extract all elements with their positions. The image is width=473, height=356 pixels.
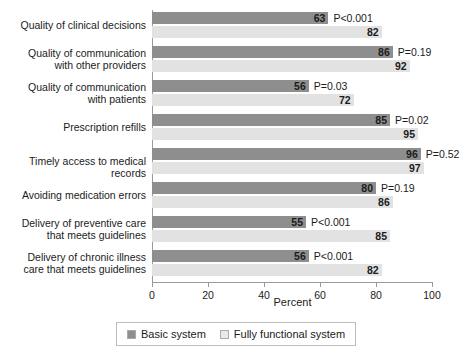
bar-group: 55P<0.00185 [152, 216, 432, 250]
bar-fully-functional-system [152, 60, 410, 72]
category-label: Avoiding medication errors [0, 189, 146, 202]
bar-fully-functional-system [152, 128, 418, 140]
bar-basic-system [152, 250, 309, 262]
p-value-annotation: P=0.02 [395, 114, 429, 126]
legend-swatch-light [220, 330, 229, 339]
bar-fully-functional-system [152, 162, 424, 174]
category-label: Quality of communication with other prov… [0, 47, 146, 72]
p-value-annotation: P<0.001 [333, 12, 372, 24]
x-axis-title: Percent [152, 296, 433, 308]
category-label: Delivery of chronic illness care that me… [0, 251, 146, 276]
bar-basic-system [152, 114, 390, 126]
bar-fully-functional-system [152, 94, 354, 106]
p-value-annotation: P=0.19 [398, 46, 432, 58]
x-tick [376, 283, 377, 287]
legend-swatch-dark [127, 330, 136, 339]
bar-value-label: 56 [289, 250, 306, 262]
bar-value-label: 85 [370, 114, 387, 126]
bar-basic-system [152, 148, 421, 160]
bar-value-label: 72 [334, 94, 351, 106]
bar-fully-functional-system [152, 26, 382, 38]
chart-legend: Basic systemFully functional system [116, 322, 356, 346]
bar-group: 85P=0.0295 [152, 114, 432, 148]
p-value-annotation: P<0.001 [314, 250, 353, 262]
bar-value-label: 63 [308, 12, 325, 24]
bar-value-label: 92 [390, 60, 407, 72]
x-tick [152, 283, 153, 287]
legend-item: Fully functional system [220, 328, 345, 340]
x-tick [264, 283, 265, 287]
bar-value-label: 80 [356, 182, 373, 194]
p-value-annotation: P=0.03 [314, 80, 348, 92]
bar-basic-system [152, 216, 306, 228]
bar-fully-functional-system [152, 264, 382, 276]
legend-label: Basic system [141, 328, 206, 340]
plot-area: 63P<0.0018286P=0.199256P=0.037285P=0.029… [152, 10, 432, 282]
category-label: Quality of clinical decisions [0, 19, 146, 32]
bar-group: 86P=0.1992 [152, 46, 432, 80]
category-label: Delivery of preventive care that meets g… [0, 217, 146, 242]
p-value-annotation: P<0.001 [311, 216, 350, 228]
bar-value-label: 82 [362, 264, 379, 276]
bar-group: 96P=0.5297 [152, 148, 432, 182]
bar-value-label: 85 [370, 230, 387, 242]
bar-basic-system [152, 46, 393, 58]
p-value-annotation: P=0.19 [381, 182, 415, 194]
x-tick [320, 283, 321, 287]
bar-basic-system [152, 12, 328, 24]
bar-value-label: 55 [286, 216, 303, 228]
bar-group: 63P<0.00182 [152, 12, 432, 46]
category-label: Quality of communication with patients [0, 81, 146, 106]
bar-value-label: 56 [289, 80, 306, 92]
bar-value-label: 97 [404, 162, 421, 174]
bar-value-label: 82 [362, 26, 379, 38]
bar-fully-functional-system [152, 230, 390, 242]
bar-group: 56P<0.00182 [152, 250, 432, 284]
category-label: Timely access to medical records [0, 155, 146, 180]
bar-value-label: 86 [373, 46, 390, 58]
p-value-annotation: P=0.52 [426, 148, 460, 160]
bar-group: 56P=0.0372 [152, 80, 432, 114]
bar-basic-system [152, 182, 376, 194]
bar-basic-system [152, 80, 309, 92]
bar-chart: Quality of clinical decisionsQuality of … [0, 0, 473, 356]
bar-group: 80P=0.1986 [152, 182, 432, 216]
bar-value-label: 86 [373, 196, 390, 208]
bar-value-label: 96 [401, 148, 418, 160]
x-tick [208, 283, 209, 287]
legend-item: Basic system [127, 328, 206, 340]
bar-fully-functional-system [152, 196, 393, 208]
legend-label: Fully functional system [234, 328, 345, 340]
x-tick [432, 283, 433, 287]
category-label: Prescription refills [0, 121, 146, 134]
bar-value-label: 95 [398, 128, 415, 140]
